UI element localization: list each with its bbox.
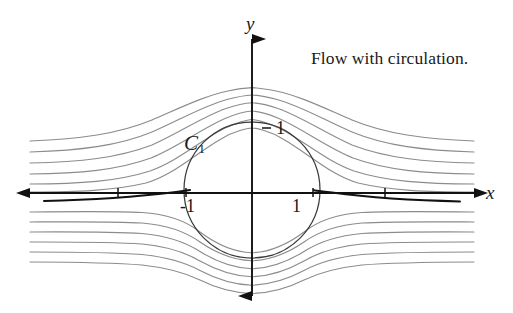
- x-tick-label-neg1: -1: [180, 197, 195, 215]
- cylinder-label-letter: C: [184, 131, 198, 155]
- figure-caption: Flow with circulation.: [311, 50, 468, 68]
- x-tick-label-pos1: 1: [292, 197, 301, 215]
- flow-diagram-canvas: [0, 0, 513, 313]
- y-tick-label-1: 1: [276, 119, 285, 137]
- x-axis-label: x: [486, 183, 494, 202]
- cylinder-label-subscript: 1: [199, 141, 206, 156]
- cylinder-label-c1: C1: [184, 133, 205, 155]
- y-axis-label: y: [246, 14, 254, 33]
- flow-figure: Flow with circulation. y x C1 1 -1 1: [0, 0, 513, 313]
